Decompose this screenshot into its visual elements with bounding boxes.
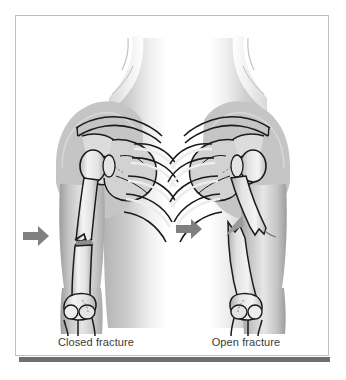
- caption-open-fracture: Open fracture: [166, 336, 326, 348]
- fracture-comparison-figure: Closed fracture Open fracture: [0, 0, 346, 380]
- illustration-plate: Closed fracture Open fracture: [15, 15, 329, 356]
- anatomical-illustration: [16, 16, 330, 357]
- humeral-head-left: [80, 150, 115, 182]
- plate-right-edge: [330, 19, 335, 362]
- plate-drop-shadow: [19, 357, 335, 362]
- panel-closed-fracture: [23, 34, 178, 336]
- panel-open-fracture: [168, 36, 290, 336]
- humerus-lower-fragment-left: [72, 245, 92, 297]
- arrow-closed-fracture: [23, 226, 49, 246]
- caption-closed-fracture: Closed fracture: [16, 336, 176, 348]
